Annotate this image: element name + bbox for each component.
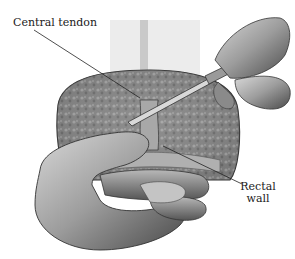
- label-rectal-wall-line2: wall: [240, 193, 276, 205]
- illustration-canvas: Central tendon Rectal wall: [0, 0, 295, 259]
- surgical-illustration: [0, 0, 295, 259]
- label-central-tendon: Central tendon: [13, 17, 97, 29]
- right-gloved-hand: [214, 18, 290, 109]
- label-rectal-wall: Rectal wall: [240, 181, 276, 205]
